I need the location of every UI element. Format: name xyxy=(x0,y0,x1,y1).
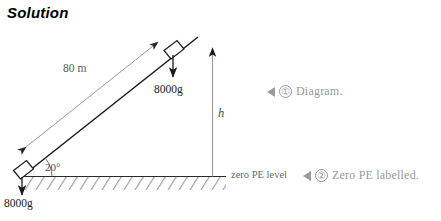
figure-stage: Solution xyxy=(0,0,441,221)
annotation-diagram: ① Diagram. xyxy=(267,84,343,99)
label-angle: 20° xyxy=(45,161,60,173)
label-incline-length: 80 m xyxy=(63,62,86,74)
callout-text-1: Diagram. xyxy=(296,84,343,99)
ground-hatching xyxy=(22,177,226,190)
annotation-zero-pe: ② Zero PE labelled. xyxy=(303,168,419,183)
callout-number-2: ② xyxy=(315,169,328,182)
ground-group xyxy=(22,177,226,191)
label-height-h: h xyxy=(218,106,224,121)
callout-text-2: Zero PE labelled. xyxy=(332,168,419,183)
block-upper xyxy=(164,41,184,60)
label-zero-pe-level: zero PE level xyxy=(231,169,287,180)
label-weight-lower: 8000g xyxy=(4,197,33,209)
label-weight-upper: 8000g xyxy=(154,83,183,95)
callout-triangle-icon xyxy=(303,171,311,181)
dimension-line-80m xyxy=(26,42,158,147)
callout-number-1: ① xyxy=(279,85,292,98)
callout-triangle-icon xyxy=(267,87,275,97)
